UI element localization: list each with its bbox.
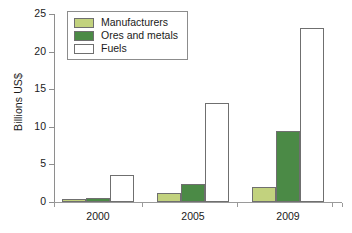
legend-label: Fuels [101,43,127,54]
y-tick-label: 15 [34,82,46,94]
legend-swatch-icon [74,18,94,28]
y-tick-mark [49,164,54,165]
legend-swatch-icon [74,44,94,54]
y-tick-mark [49,14,54,15]
x-axis-group-label: 2000 [62,210,134,222]
bar [276,131,300,202]
y-tick-label: 20 [34,45,46,57]
bar [157,193,181,202]
legend-item[interactable]: Manufacturers [74,16,178,29]
bar [62,199,86,202]
y-tick-label: 0 [40,195,46,207]
x-axis-group-label: 2005 [157,210,229,222]
x-tick-mark [54,203,55,207]
legend-label: Manufacturers [101,17,168,28]
x-tick-mark [332,203,333,207]
y-tick-mark [49,89,54,90]
legend-item[interactable]: Ores and metals [74,29,178,42]
x-tick-mark [342,203,343,207]
y-tick-label: 10 [34,120,46,132]
bar-chart: Billions US$ 0510152025 200020052009 Man… [0,0,352,233]
legend-swatch-icon [74,31,94,41]
bar [252,187,276,202]
chart-legend: ManufacturersOres and metalsFuels [67,11,188,60]
y-tick-mark [49,127,54,128]
x-axis-line [54,202,342,203]
bar [110,175,134,202]
y-tick-mark [49,52,54,53]
y-tick-label: 5 [40,157,46,169]
y-axis-title: Billions US$ [12,42,24,162]
bar [300,28,324,202]
x-axis-group-label: 2009 [252,210,324,222]
bar [181,184,205,202]
y-tick-label: 25 [34,7,46,19]
bar-group: 2009 [252,14,330,202]
bar [86,198,110,202]
legend-item[interactable]: Fuels [74,42,178,55]
y-axis-line [54,14,55,203]
bar [205,103,229,202]
x-tick-mark [237,203,238,207]
legend-label: Ores and metals [101,30,178,41]
x-tick-mark [142,203,143,207]
